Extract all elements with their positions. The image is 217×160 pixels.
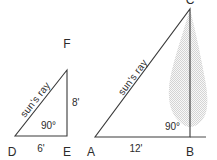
small-base-measure-label: 6' [37, 143, 45, 154]
vertex-label-c: C [186, 0, 195, 7]
vertex-label-e: E [63, 145, 71, 159]
diagram-canvas: sun's ray 90° 12' A B C sun's ray 90° 8'… [0, 0, 217, 160]
large-right-angle-label: 90° [165, 121, 180, 132]
tree-silhouette [169, 9, 207, 127]
similar-triangles-figure: sun's ray 90° 12' A B C sun's ray 90° 8'… [0, 0, 217, 160]
vertex-label-d: D [8, 145, 17, 159]
vertex-label-a: A [87, 145, 95, 159]
tree-shape-texture [169, 9, 207, 127]
vertex-label-f: F [63, 37, 70, 51]
vertex-label-b: B [186, 145, 194, 159]
small-sun-ray-label-group: sun's ray [18, 80, 52, 119]
large-sun-ray-label: sun's ray [116, 57, 150, 97]
small-sun-ray-label: sun's ray [18, 80, 52, 119]
large-base-measure-label: 12' [129, 143, 142, 154]
large-sun-ray-label-group: sun's ray [116, 57, 150, 97]
small-vertical-measure-label: 8' [72, 97, 80, 108]
small-right-angle-label: 90° [41, 120, 56, 131]
